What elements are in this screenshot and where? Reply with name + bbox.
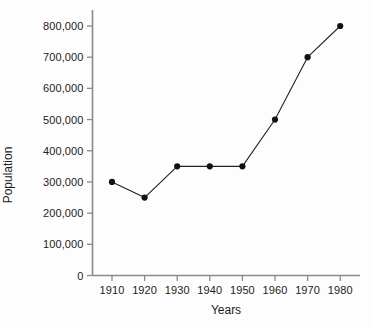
- data-point: [305, 54, 311, 60]
- data-point: [109, 179, 115, 185]
- data-point: [272, 116, 278, 122]
- x-tick-label: 1930: [165, 284, 190, 296]
- data-point: [337, 23, 343, 29]
- population-line-chart: 0100,000200,000300,000400,000500,000600,…: [0, 0, 371, 328]
- x-tick-label: 1960: [263, 284, 288, 296]
- y-tick-label: 700,000: [43, 51, 83, 63]
- y-axis-title: Population: [1, 147, 15, 204]
- y-tick-label: 800,000: [43, 20, 83, 32]
- data-point: [174, 163, 180, 169]
- x-tick-label: 1970: [295, 284, 320, 296]
- x-tick-label: 1910: [100, 284, 125, 296]
- y-tick-label: 600,000: [43, 82, 83, 94]
- x-axis-title: Years: [211, 303, 241, 317]
- x-tick-label: 1980: [328, 284, 353, 296]
- data-point: [207, 163, 213, 169]
- x-tick-label: 1940: [197, 284, 222, 296]
- y-tick-label: 100,000: [43, 238, 83, 250]
- y-tick-label: 0: [77, 270, 83, 282]
- x-tick-label: 1920: [132, 284, 157, 296]
- data-point: [239, 163, 245, 169]
- chart-plot-area: [0, 0, 371, 328]
- data-point: [142, 194, 148, 200]
- data-line: [112, 26, 340, 198]
- y-tick-label: 200,000: [43, 207, 83, 219]
- chart-axes: [93, 10, 361, 276]
- data-point-markers: [109, 23, 343, 201]
- y-tick-label: 400,000: [43, 145, 83, 157]
- y-tick-label: 300,000: [43, 176, 83, 188]
- chart-tick-marks: [87, 26, 340, 281]
- y-tick-label: 500,000: [43, 114, 83, 126]
- x-tick-label: 1950: [230, 284, 255, 296]
